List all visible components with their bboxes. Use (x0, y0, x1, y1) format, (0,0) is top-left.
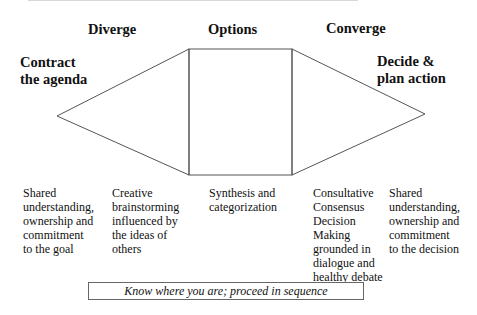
phase-contract-line2: the agenda (20, 71, 87, 88)
phase-converge: Converge (326, 20, 386, 37)
phase-options: Options (208, 21, 257, 38)
desc-contract: Shared understanding, ownership and comm… (23, 186, 94, 256)
options-rectangle (189, 49, 292, 175)
phase-contract-line1: Contract (20, 54, 87, 71)
phase-contract: Contract the agenda (20, 54, 87, 88)
desc-decide: Shared understanding, ownership and comm… (389, 186, 460, 256)
footer-note-box: Know where you are; proceed in sequence (88, 282, 364, 300)
phase-decide: Decide & plan action (377, 53, 446, 87)
desc-converge: Consultative Consensus Decision Making g… (313, 186, 383, 284)
footer-note: Know where you are; proceed in sequence (124, 284, 327, 298)
phase-decide-line2: plan action (377, 70, 446, 87)
phase-decide-line1: Decide & (377, 53, 446, 70)
phase-diverge: Diverge (88, 21, 136, 38)
desc-diverge: Creative brainstorming influenced by the… (112, 186, 179, 256)
desc-options: Synthesis and categorization (209, 186, 277, 214)
diamond-process-shape (0, 0, 477, 315)
